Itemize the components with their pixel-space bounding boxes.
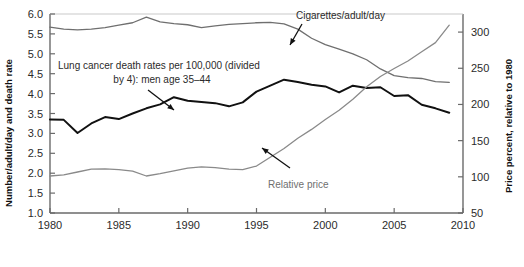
x-tick-label: 1995 [244,219,268,231]
y2-tick-label: 150 [471,135,489,147]
x-tick-label: 1980 [38,219,62,231]
y-tick-label: 4.0 [28,88,43,100]
y-tick-label: 4.5 [28,68,43,80]
annotation-cigarettes-label: Cigarettes/adult/day [296,10,385,21]
y2-tick-label: 50 [471,207,483,219]
line-chart: 1980198519901995200020052010 1.01.52.02.… [0,0,524,267]
y-tick-label: 3.5 [28,108,43,120]
annotation-lung-cancer-line1: Lung cancer death rates per 100,000 (div… [58,60,260,71]
y-tick-label: 3.0 [28,127,43,139]
y2-tick-label: 300 [471,26,489,38]
y-tick-label: 6.0 [28,8,43,20]
y2-tick-label: 100 [471,171,489,183]
x-tick-label: 2005 [382,219,406,231]
x-tick-label: 1985 [107,219,131,231]
y2-tick-label: 250 [471,62,489,74]
y-tick-label: 2.0 [28,167,43,179]
y-axis-right-title: Price percent, relative to 1980 [503,59,514,193]
y-tick-label: 5.0 [28,48,43,60]
x-tick-label: 2010 [451,219,475,231]
annotation-lung-cancer-line2: by 4): men age 35–44 [113,74,211,85]
y-axis-left-title: Number/adult/day and death rate [3,59,14,207]
x-tick-label: 1990 [175,219,199,231]
y-tick-label: 5.5 [28,28,43,40]
y-tick-label: 1.5 [28,187,43,199]
annotation-relative-price-label: Relative price [268,179,329,190]
chart-container: 1980198519901995200020052010 1.01.52.02.… [0,0,524,267]
y-tick-label: 2.5 [28,147,43,159]
y2-tick-label: 200 [471,98,489,110]
x-tick-label: 2000 [313,219,337,231]
y-tick-label: 1.0 [28,207,43,219]
